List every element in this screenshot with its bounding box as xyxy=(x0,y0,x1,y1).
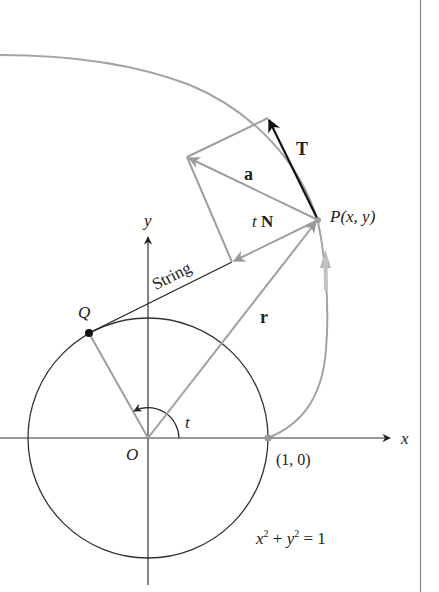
vector-tN-N: N xyxy=(261,212,273,231)
angle-t-label: t xyxy=(185,414,190,431)
vector-r-label: r xyxy=(260,308,268,326)
parallelogram-side-2 xyxy=(187,118,268,157)
vector-r xyxy=(148,222,316,438)
vector-T-label: T xyxy=(296,140,308,158)
point-q-label: Q xyxy=(78,304,90,321)
circle-equation: x2 + y2 = 1 xyxy=(256,530,326,547)
point-start xyxy=(265,435,272,442)
involute-diagram: x y O Q P(x, y) (1, 0) t String r T a t … xyxy=(0,0,439,592)
vector-T xyxy=(269,120,318,220)
diagram-canvas xyxy=(0,0,439,592)
vector-a-label: a xyxy=(244,165,253,183)
point-p xyxy=(315,217,321,223)
origin-label: O xyxy=(126,446,138,463)
vector-tN-label: t N xyxy=(252,213,273,230)
radius-oq xyxy=(89,333,148,438)
start-point-label: (1, 0) xyxy=(276,452,311,468)
point-p-label: P(x, y) xyxy=(330,208,375,225)
point-q xyxy=(85,329,93,337)
angle-arc xyxy=(134,408,179,438)
vector-tN xyxy=(234,220,318,261)
y-axis-label: y xyxy=(144,212,152,229)
parallelogram-side-1 xyxy=(187,157,232,262)
involute-curve xyxy=(0,55,327,438)
x-axis-label: x xyxy=(401,430,409,447)
vector-tN-t: t xyxy=(252,212,257,231)
vector-a xyxy=(189,158,318,220)
